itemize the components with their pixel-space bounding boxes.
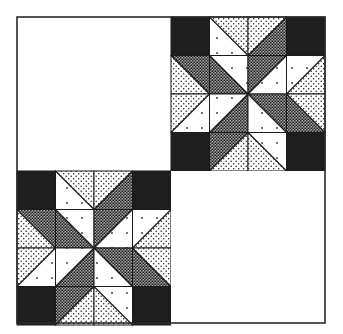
patch-r3-c1 [210,133,249,172]
patch-r0-c1 [56,171,95,210]
plain-block [17,17,171,171]
patch-r2-c1 [56,248,95,287]
patch-r1-c1 [56,210,95,249]
patch-r3-c3 [287,133,326,172]
patch-r3-c1 [56,287,95,326]
patch-r0-c3 [287,17,326,56]
patch-r1-c1 [210,56,249,95]
patch-r0-c2 [94,171,133,210]
patch-r3-c3 [133,287,172,326]
patch-r0-c1 [210,17,249,56]
patch-r2-c2 [248,94,287,133]
star-block [17,171,171,325]
patch-r0-c3 [133,171,172,210]
patch-r2-c3 [287,94,326,133]
patch-r3-c0 [17,287,56,326]
patch-r2-c1 [210,94,249,133]
patch-r1-c3 [133,210,172,249]
patch-r2-c2 [94,248,133,287]
patch-r3-c2 [94,287,133,326]
patch-r2-c3 [133,248,172,287]
patch-r0-c2 [248,17,287,56]
patch-r1-c2 [248,56,287,95]
patch-r1-c2 [94,210,133,249]
plain-block [171,171,325,325]
patch-r3-c2 [248,133,287,172]
quilt-diagram [0,0,343,334]
patch-r1-c0 [171,56,210,95]
patch-r0-c0 [171,17,210,56]
patch-r1-c0 [17,210,56,249]
star-block [171,17,325,171]
patch-r3-c0 [171,133,210,172]
patch-r0-c0 [17,171,56,210]
patch-r2-c0 [17,248,56,287]
patch-r1-c3 [287,56,326,95]
patch-r2-c0 [171,94,210,133]
